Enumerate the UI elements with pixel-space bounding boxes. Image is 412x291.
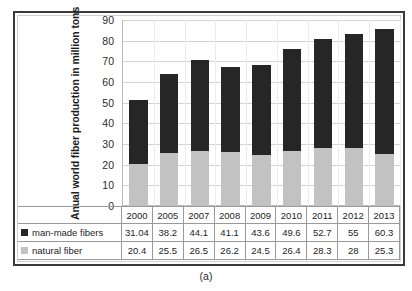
bar-segment-natural-fiber — [283, 151, 301, 206]
year-cell: 2009 — [246, 206, 277, 224]
bar-segment-natural-fiber — [252, 155, 270, 206]
category-separator — [154, 20, 155, 206]
year-cell: 2011 — [307, 206, 338, 224]
legend-label-man-made-fibers: man-made fibers — [32, 227, 103, 238]
y-tick-label: 20 — [102, 159, 114, 171]
y-axis-title-holder: Anual world fiber production in million … — [48, 20, 66, 220]
value-cell: 31.04 — [122, 224, 153, 242]
value-cell: 26.2 — [215, 242, 246, 260]
category-separator — [185, 20, 186, 206]
bar-group — [252, 20, 270, 206]
bar-segment-natural-fiber — [345, 148, 363, 206]
category-separator — [215, 20, 216, 206]
year-cell: 2005 — [153, 206, 184, 224]
bar-group — [191, 20, 209, 206]
plot-area — [122, 20, 400, 206]
bar-segment-man-made-fibers — [314, 39, 332, 148]
year-cell: 2010 — [276, 206, 307, 224]
value-cell: 55 — [338, 224, 369, 242]
year-cell: 2008 — [215, 206, 246, 224]
bar-group — [160, 20, 178, 206]
year-cell: 2007 — [184, 206, 215, 224]
value-cell: 44.1 — [184, 224, 215, 242]
value-cell: 25.3 — [369, 242, 400, 260]
value-cell: 26.5 — [184, 242, 215, 260]
y-tick-label: 50 — [102, 97, 114, 109]
bar-segment-man-made-fibers — [191, 60, 209, 151]
legend-swatch-icon-man-made-fibers — [21, 229, 28, 236]
legend-label-natural-fiber: natural fiber — [32, 245, 82, 256]
y-tick-label: 10 — [102, 179, 114, 191]
bar-segment-natural-fiber — [160, 153, 178, 206]
figure-container: Anual world fiber production in million … — [0, 0, 412, 291]
bar-group — [283, 20, 301, 206]
bar-segment-man-made-fibers — [129, 100, 147, 164]
bar-group — [221, 20, 239, 206]
y-tick-label: 30 — [102, 138, 114, 150]
table-row-man-made-fibers: man-made fibers 31.04 38.2 44.1 41.1 43.… — [18, 224, 400, 242]
bar-segment-natural-fiber — [191, 151, 209, 206]
category-separator — [246, 20, 247, 206]
bar-segment-man-made-fibers — [375, 29, 393, 154]
bar-group — [375, 20, 393, 206]
value-cell: 24.5 — [246, 242, 277, 260]
legend-item-man-made-fibers: man-made fibers — [18, 224, 122, 242]
bar-segment-natural-fiber — [221, 152, 239, 206]
value-cell: 28 — [338, 242, 369, 260]
table-corner-cell — [18, 206, 122, 224]
y-tick-label: 40 — [102, 117, 114, 129]
table-row-natural-fiber: natural fiber 20.4 25.5 26.5 26.2 24.5 2… — [18, 242, 400, 260]
table-row-years: 2000 2005 2007 2008 2009 2010 2011 2012 … — [18, 206, 400, 224]
y-tick-label: 80 — [102, 35, 114, 47]
year-cell: 2012 — [338, 206, 369, 224]
category-separator — [400, 20, 401, 206]
category-separator — [369, 20, 370, 206]
value-cell: 26.4 — [276, 242, 307, 260]
bar-segment-man-made-fibers — [252, 65, 270, 155]
year-cell: 2013 — [369, 206, 400, 224]
value-cell: 60.3 — [369, 224, 400, 242]
y-axis-title: Anual world fiber production in million … — [66, 20, 84, 220]
bar-segment-man-made-fibers — [345, 34, 363, 148]
bar-segment-man-made-fibers — [160, 74, 178, 153]
figure-caption: (a) — [0, 270, 412, 282]
category-separator — [338, 20, 339, 206]
bar-segment-natural-fiber — [129, 164, 147, 206]
y-tick-label: 60 — [102, 76, 114, 88]
bar-group — [345, 20, 363, 206]
bar-group — [314, 20, 332, 206]
legend-swatch-icon-natural-fiber — [21, 247, 28, 254]
legend-item-natural-fiber: natural fiber — [18, 242, 122, 260]
y-tick-label: 90 — [102, 14, 114, 26]
value-cell: 49.6 — [276, 224, 307, 242]
y-tick-label: 70 — [102, 55, 114, 67]
bar-segment-man-made-fibers — [221, 67, 239, 152]
value-cell: 52.7 — [307, 224, 338, 242]
bar-group — [129, 20, 147, 206]
value-cell: 41.1 — [215, 224, 246, 242]
bar-segment-natural-fiber — [375, 154, 393, 206]
value-cell: 25.5 — [153, 242, 184, 260]
value-cell: 28.3 — [307, 242, 338, 260]
bar-segment-natural-fiber — [314, 148, 332, 206]
value-cell: 43.6 — [246, 224, 277, 242]
y-axis-tick-labels: 9080706050403020100 — [86, 20, 118, 206]
category-separator — [277, 20, 278, 206]
bar-segment-man-made-fibers — [283, 49, 301, 152]
year-cell: 2000 — [122, 206, 153, 224]
category-separator — [308, 20, 309, 206]
value-cell: 20.4 — [122, 242, 153, 260]
data-table: 2000 2005 2007 2008 2009 2010 2011 2012 … — [18, 206, 400, 260]
value-cell: 38.2 — [153, 224, 184, 242]
